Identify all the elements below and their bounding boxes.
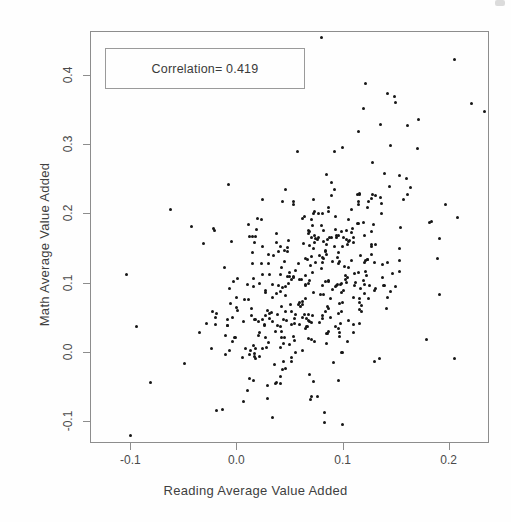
data-point [264,314,267,317]
data-point [228,287,231,290]
data-point [267,341,270,344]
data-point [310,218,313,221]
data-point [266,397,269,400]
data-point [356,222,359,225]
y-tick-mark [83,75,90,76]
data-point [330,181,333,184]
data-point [254,357,257,360]
data-point [322,229,325,232]
data-point [346,276,349,279]
data-point [352,331,355,334]
data-point [370,253,373,256]
y-tick-label: 0.2 [61,199,75,227]
data-point [352,296,355,299]
y-tick-mark [83,144,90,145]
data-point [254,235,257,238]
data-point [333,150,336,153]
data-point [268,312,271,315]
data-point [279,290,282,293]
data-point [125,273,128,276]
data-point [331,260,334,263]
data-point [202,242,205,245]
data-point [386,261,389,264]
data-point [283,260,286,263]
data-point [327,307,330,310]
data-point [347,319,350,322]
data-point [286,246,289,249]
data-point [388,185,391,188]
data-point [362,279,365,282]
data-point [417,118,420,121]
data-point [374,194,377,197]
data-point [409,186,412,189]
data-point [350,208,353,211]
data-point [317,212,320,215]
data-point [363,283,366,286]
data-point [253,352,256,355]
data-point [263,324,266,327]
data-point [337,234,340,237]
data-point [241,356,244,359]
data-point [275,241,278,244]
data-point [371,193,374,196]
data-point [214,316,217,319]
data-point [381,263,384,266]
data-point [293,317,296,320]
data-point [337,327,340,330]
data-point [290,310,293,313]
data-point [358,193,361,196]
data-point [430,220,433,223]
data-point [251,262,254,265]
data-point [341,146,344,149]
data-point [284,188,287,191]
data-point [340,351,343,354]
data-point [394,101,397,104]
data-point [338,260,341,263]
data-point [305,325,308,328]
data-point [324,249,327,252]
data-point [368,284,371,287]
data-point [282,342,285,345]
data-point [371,161,374,164]
data-point [425,338,428,341]
data-point [268,273,271,276]
data-point [322,293,325,296]
data-point [341,245,344,248]
data-point [285,319,288,322]
data-point [320,224,323,227]
data-point [378,357,381,360]
data-point [393,95,396,98]
data-point [352,241,355,244]
data-point [205,322,208,325]
data-point [338,331,341,334]
data-point [293,322,296,325]
data-point [235,296,238,299]
data-point [312,198,315,201]
x-tick-label: -0.1 [120,453,141,467]
data-point [274,330,277,333]
data-point [372,223,375,226]
data-point [391,272,394,275]
data-point [322,240,325,243]
y-tick-mark [83,421,90,422]
data-point [321,212,324,215]
data-point [224,334,227,337]
data-point [483,110,486,113]
data-point [281,286,284,289]
data-point [330,194,333,197]
data-point [385,307,388,310]
data-point [337,312,340,315]
data-point [359,254,362,257]
data-point [287,239,290,242]
data-point [252,285,255,288]
data-point [398,247,401,250]
data-point [287,282,290,285]
data-point [258,282,261,285]
data-point [357,200,360,203]
data-point [284,285,287,288]
data-point [236,277,239,280]
x-tick-mark [130,443,131,450]
data-point [438,237,441,240]
data-point [264,336,267,339]
data-point [261,273,264,276]
